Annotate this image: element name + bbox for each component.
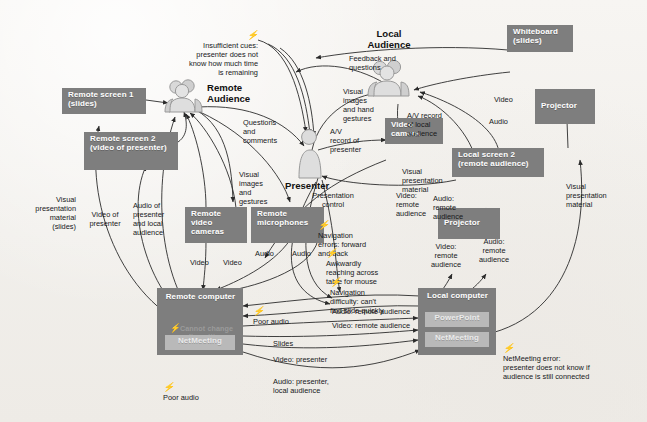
edge-label-av-record-of-local-audience: A/V record of local audience bbox=[407, 112, 442, 139]
edge-label-video-left: Video bbox=[190, 259, 209, 268]
app-local-netmeeting[interactable]: NetMeeting bbox=[425, 332, 489, 347]
app-label: PowerPoint bbox=[434, 313, 479, 322]
node-label: Remote microphones bbox=[257, 209, 308, 227]
node-remote-video-cameras[interactable]: Remote video cameras bbox=[185, 207, 247, 243]
edge-label-visual-presentation-material-slides: Visual presentation material (slides) bbox=[10, 196, 76, 232]
node-label: Remote screen 1 (slides) bbox=[68, 90, 134, 108]
node-local-computer[interactable]: Local computer PowerPoint NetMeeting bbox=[418, 288, 496, 355]
edge-label-video-remote-audience-presenter: Video: remote audience bbox=[396, 192, 426, 219]
edge-label-slides-link: Slides bbox=[273, 340, 293, 349]
node-label: Remote computer bbox=[166, 292, 236, 301]
edge-label-feedback-and-questions: Feedback and questions bbox=[349, 55, 396, 73]
edge-label-video-remote-audience-projector: Video: remote audience bbox=[424, 243, 468, 270]
breakdown-bolt-icon: ⚡ bbox=[318, 220, 329, 230]
edge-label-audio-left: Audio bbox=[255, 250, 274, 259]
node-projector-top[interactable]: Projector bbox=[535, 89, 595, 124]
node-label: Local computer bbox=[427, 291, 488, 300]
people-group-icon bbox=[163, 78, 203, 114]
node-local-screen-2[interactable]: Local screen 2 (remote audience) bbox=[452, 148, 544, 177]
node-remote-screen-1[interactable]: Remote screen 1 (slides) bbox=[62, 88, 146, 114]
app-label: NetMeeting bbox=[435, 333, 479, 342]
edge-label-video-of-presenter: Video of presenter bbox=[80, 211, 130, 229]
edge-label-questions-and-comments: Questions and comments bbox=[243, 119, 277, 146]
breakdown-bolt-icon: ⚡ bbox=[170, 323, 179, 334]
person-icon bbox=[296, 128, 324, 180]
node-whiteboard[interactable]: Whiteboard (slides) bbox=[507, 25, 573, 52]
edge-label-audio-remote-audience-presenter: Audio: remote audience bbox=[433, 195, 463, 222]
node-remote-microphones[interactable]: Remote microphones bbox=[251, 207, 324, 243]
app-remote-netmeeting[interactable]: NetMeeting bbox=[165, 335, 235, 350]
node-label: Whiteboard (slides) bbox=[513, 27, 558, 45]
breakdown-insufficient-cues: ⚡ Insufficient cues: presenter does not … bbox=[140, 21, 258, 77]
edge-label-video-to-local-audience: Video bbox=[494, 96, 513, 105]
edge-label-audio-of-presenter-and-local-audience: Audio of presenter and local audience bbox=[133, 202, 185, 238]
edge-label-video-remote-audience-link: Video: remote audience bbox=[250, 322, 410, 331]
edge-label-audio-right: Audio bbox=[292, 250, 311, 259]
breakdown-bolt-icon: ⚡ bbox=[326, 248, 337, 258]
edge-label-presentation-control: Presentation control bbox=[300, 192, 366, 210]
app-label: NetMeeting bbox=[178, 336, 222, 345]
edge-label-audio-presenter-local-audience-link: Audio: presenter, local audience bbox=[273, 378, 329, 396]
edge-label-visual-images-and-hand-gestures: Visual images and hand gestures bbox=[343, 88, 374, 124]
edge-label-av-record-of-presenter: A/V record of presenter bbox=[330, 128, 361, 155]
actor-presenter[interactable] bbox=[296, 128, 324, 180]
diagram-canvas: Remote screen 1 (slides) Remote screen 2… bbox=[0, 0, 647, 422]
actor-label-local-audience: Local Audience bbox=[352, 29, 426, 50]
breakdown-bolt-icon: ⚡ bbox=[247, 30, 258, 40]
edge-label-visual-images-and-gestures-remote: Visual images and gestures bbox=[239, 171, 267, 207]
breakdown-netmeeting-error: ⚡ NetMeeting error: presenter does not k… bbox=[503, 334, 643, 381]
edge-label-audio-remote-audience-link: Audio: remote audience bbox=[250, 308, 410, 317]
edge-label-visual-presentation-material-right: Visual presentation material bbox=[566, 183, 607, 210]
edge-label-audio-remote-audience-projector: Audio: remote audience bbox=[472, 238, 516, 265]
breakdown-bolt-icon: ⚡ bbox=[503, 343, 514, 353]
node-label: Remote video cameras bbox=[191, 209, 224, 236]
edge-label-video-presenter-link: Video: presenter bbox=[273, 356, 327, 365]
breakdown-bolt-icon: ⚡ bbox=[163, 382, 174, 392]
actor-label-remote-audience: Remote Audience bbox=[207, 83, 250, 104]
node-label: Projector bbox=[541, 102, 577, 111]
node-label: Local screen 2 (remote audience) bbox=[458, 150, 529, 168]
edge-label-audio-to-local-audience: Audio bbox=[489, 118, 508, 127]
breakdown-poor-audio-bottom: ⚡ Poor audio bbox=[163, 373, 199, 402]
node-remote-computer[interactable]: Remote computer ⚡Cannot change audio set… bbox=[157, 288, 243, 355]
node-remote-screen-2[interactable]: Remote screen 2 (video of presenter) bbox=[84, 132, 178, 170]
breakdown-bolt-icon: ⚡ bbox=[330, 277, 341, 287]
app-local-powerpoint[interactable]: PowerPoint bbox=[425, 312, 489, 327]
actor-remote-audience[interactable] bbox=[163, 78, 203, 114]
node-label: Remote screen 2 (video of presenter) bbox=[90, 134, 167, 152]
edge-label-video-right: Video bbox=[223, 259, 242, 268]
